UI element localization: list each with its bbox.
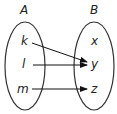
element-x: x <box>90 34 99 48</box>
element-m: m <box>17 82 29 96</box>
element-z: z <box>90 82 98 96</box>
arrow-k-to-y <box>32 43 87 62</box>
element-y: y <box>90 57 99 71</box>
mapping-diagram: A B k l m x y z <box>0 0 117 114</box>
element-l: l <box>22 57 26 71</box>
set-a-label: A <box>19 3 28 17</box>
element-k: k <box>21 34 29 48</box>
set-b-label: B <box>90 3 98 17</box>
